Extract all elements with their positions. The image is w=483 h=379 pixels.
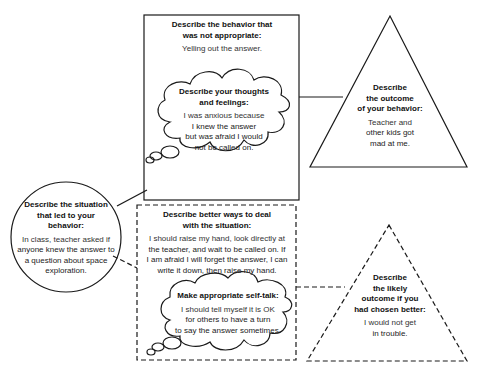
likely-outcome-heading-2: the likely xyxy=(345,284,435,295)
situation-heading-2: that led to your xyxy=(12,211,120,222)
situation-text: Describe the situation that led to your … xyxy=(12,200,120,277)
outcome-heading-1: Describe xyxy=(345,83,435,94)
better-ways-heading-2: with the situation: xyxy=(138,221,296,232)
better-ways-body-3: I am afraid I will forget the answer, I … xyxy=(138,255,296,266)
situation-heading-3: behavior: xyxy=(12,221,120,232)
behavior-heading-1: Describe the behavior that xyxy=(148,20,296,31)
better-ways-body-4: write it down, then raise my hand. xyxy=(138,266,296,277)
behavior-heading-2: was not appropriate: xyxy=(148,31,296,42)
likely-outcome-body-2: in trouble. xyxy=(345,329,435,340)
self-talk-text: Make appropriate self-talk: I should tel… xyxy=(168,291,288,336)
likely-outcome-heading-4: had chosen better: xyxy=(345,305,435,316)
better-ways-body-1: I should raise my hand, look directly at xyxy=(138,234,296,245)
self-talk-body-2: for others to have a turn xyxy=(168,315,288,326)
likely-outcome-heading-1: Describe xyxy=(345,273,435,284)
thoughts-body-4: not be called on. xyxy=(170,143,278,154)
situation-body-4: exploration. xyxy=(12,266,120,277)
self-talk-body-3: to say the answer sometimes. xyxy=(168,326,288,337)
behavior-text: Describe the behavior that was not appro… xyxy=(148,20,296,55)
thoughts-body-2: I knew the answer xyxy=(170,122,278,133)
thoughts-heading-1: Describe your thoughts xyxy=(170,87,278,98)
situation-body-2: anyone knew the answer to xyxy=(12,245,120,256)
thoughts-heading-2: and feelings: xyxy=(170,98,278,109)
better-ways-text: Describe better ways to deal with the si… xyxy=(138,210,296,276)
thoughts-text: Describe your thoughts and feelings: I w… xyxy=(170,87,278,153)
better-ways-heading-1: Describe better ways to deal xyxy=(138,210,296,221)
self-talk-heading: Make appropriate self-talk: xyxy=(168,291,288,302)
situation-body-1: In class, teacher asked if xyxy=(12,235,120,246)
outcome-heading-2: the outcome xyxy=(345,94,435,105)
thoughts-body-1: I was anxious because xyxy=(170,111,278,122)
outcome-heading-3: of your behavior: xyxy=(345,104,435,115)
connector-situation-to-behavior xyxy=(117,190,147,206)
outcome-body-3: mad at me. xyxy=(345,139,435,150)
outcome-body-2: other kids got xyxy=(345,128,435,139)
outcome-text: Describe the outcome of your behavior: T… xyxy=(345,83,435,149)
situation-heading-1: Describe the situation xyxy=(12,200,120,211)
self-talk-bubble-mini xyxy=(147,349,155,355)
likely-outcome-heading-3: outcome if you xyxy=(345,294,435,305)
likely-outcome-text: Describe the likely outcome if you had c… xyxy=(345,273,435,339)
likely-outcome-body-1: I would not get xyxy=(345,318,435,329)
self-talk-bubble-small xyxy=(163,337,181,349)
situation-body-3: a question about space xyxy=(12,256,120,267)
better-ways-body-2: the teacher, and wait to be called on. I… xyxy=(138,245,296,256)
thought-bubble-tiny xyxy=(150,152,162,160)
self-talk-body-1: I should tell myself it is OK xyxy=(168,305,288,316)
behavior-body: Yelling out the answer. xyxy=(148,44,296,55)
thoughts-body-3: but was afraid I would xyxy=(170,132,278,143)
outcome-body-1: Teacher and xyxy=(345,118,435,129)
